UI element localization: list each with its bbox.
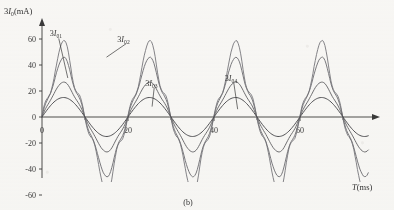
- y-tick-label: -40: [25, 165, 36, 174]
- figure-caption: (b): [183, 198, 193, 207]
- y-tick-label: -60: [25, 191, 36, 200]
- y-tick-label: -20: [25, 139, 36, 148]
- figure-background: [0, 0, 394, 210]
- x-tick-label: 0: [40, 126, 44, 135]
- y-axis-label: 3I0(mA): [4, 6, 32, 17]
- x-axis-label: T(ms): [352, 182, 372, 192]
- y-tick-label: 60: [28, 35, 36, 44]
- y-tick-label: 0: [32, 113, 36, 122]
- figure-b-waveform-chart: 6040200-20-40-600204060 3I013I023I033I04…: [0, 0, 394, 210]
- y-tick-label: 40: [28, 61, 36, 70]
- y-tick-label: 20: [28, 87, 36, 96]
